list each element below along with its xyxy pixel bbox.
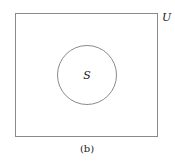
set-label: S bbox=[83, 69, 91, 82]
venn-diagram: U S (b) bbox=[0, 0, 175, 164]
universe-label: U bbox=[162, 11, 172, 24]
caption: (b) bbox=[80, 143, 94, 154]
